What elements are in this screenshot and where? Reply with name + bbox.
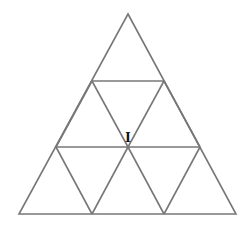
figure-canvas: I [0,0,252,229]
center-vertex-label-I: I [125,129,131,145]
diagram-background [0,0,252,229]
triangle-diagram: I [0,0,252,229]
